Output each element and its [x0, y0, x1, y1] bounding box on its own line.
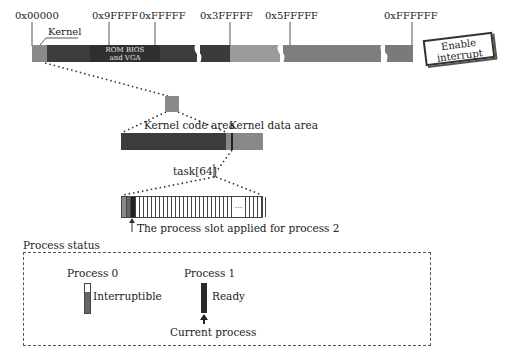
process-0-state: Interruptible [93, 291, 162, 302]
process-1-name: Process 1 [184, 268, 235, 279]
process-slot-caption: The process slot applied for process 2 [137, 223, 339, 234]
kernel-code-area-label: Kernel code area [144, 120, 235, 131]
process-1-state-bar [201, 283, 207, 313]
task-slots: ... [121, 196, 263, 218]
task-array-label: task[64] [173, 166, 217, 177]
task-slot [266, 197, 270, 217]
kernel-code-area-bar [121, 133, 226, 150]
process-0-name: Process 0 [67, 268, 118, 279]
process-status-title: Process status [23, 240, 100, 251]
process-1-state: Ready [212, 291, 245, 302]
kernel-zoom-square [165, 96, 179, 112]
task-slot-ellipsis: ... [232, 197, 246, 217]
current-process-label: Current process [170, 327, 256, 338]
process-0-state-bar [84, 283, 91, 314]
ellipsis-text: ... [235, 201, 243, 210]
task-array-marker [231, 133, 233, 150]
kernel-data-area-label: Kernel data area [229, 120, 318, 131]
